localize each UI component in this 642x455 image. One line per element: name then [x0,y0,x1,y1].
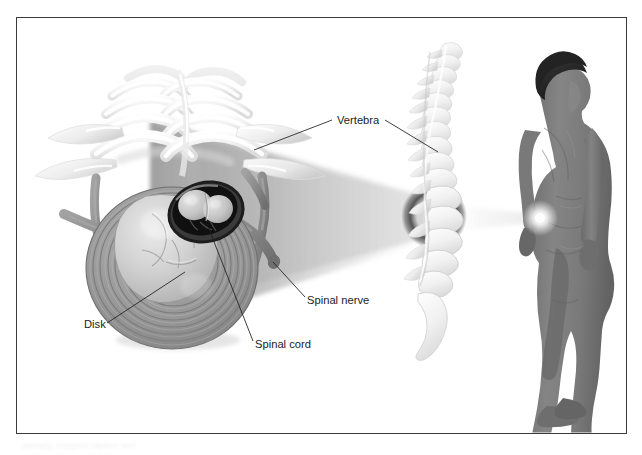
cropped-caption-fragment: partially cropped caption text [22,441,232,450]
illustration-frame [16,17,627,434]
illustration-root: Vertebra Spinal nerve Disk Spinal cord p… [0,0,642,455]
